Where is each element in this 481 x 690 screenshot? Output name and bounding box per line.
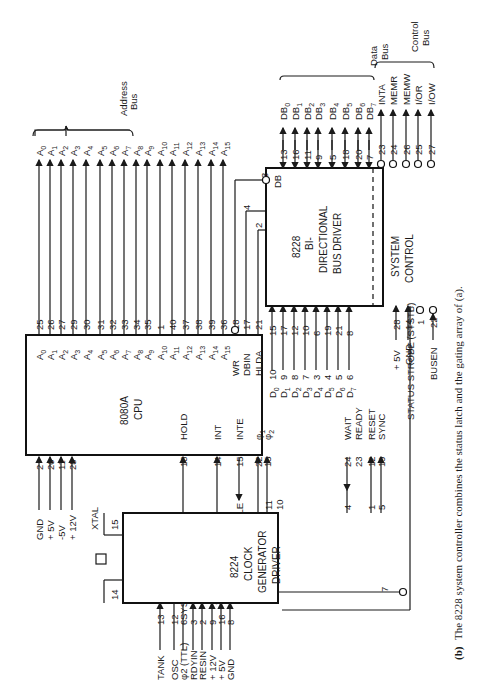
busen-bubble (430, 307, 437, 314)
cpu-power-label: + 5V (45, 520, 56, 540)
circuit-diagram: A0A1A2A3A4A5A6A7A8A9A10A11A12A13A14A15 A… (0, 0, 481, 690)
address-bus-label-a11: A11 (167, 142, 180, 156)
controller-d-pin: 19 (322, 325, 333, 336)
control-bus-label-inta: INTA (376, 83, 387, 105)
controller-pin3-bubble (263, 177, 270, 184)
clock-left-pin: 8 (225, 620, 236, 625)
controller-d-pin: 21 (333, 325, 344, 336)
cpu-pin-number: 32 (107, 319, 118, 330)
address-bus-label-a3: A3 (68, 146, 81, 156)
cpu-data-pin: 4 (322, 375, 333, 380)
controller-d-pin: 12 (289, 325, 300, 336)
controller-db-pin: 20 (353, 149, 364, 160)
controller-db-pin: 18 (340, 149, 351, 160)
control-bubble (403, 161, 410, 168)
control-bubble (378, 161, 385, 168)
svg-text:2: 2 (253, 223, 264, 228)
controller-db-pin: 5 (327, 155, 338, 160)
control-bus-brace (375, 62, 434, 68)
busen-label: BUSEN (428, 347, 439, 380)
control-bus-label-ior: I/OR (413, 85, 424, 105)
cpu-pin-number: 31 (95, 319, 106, 330)
cpu-pin-number: 37 (180, 319, 191, 330)
cpu-data-pin: 5 (333, 375, 344, 380)
controller-d-pin: 10 (300, 325, 311, 336)
svg-text:22: 22 (428, 317, 439, 328)
controller-control-pin: 26 (401, 144, 412, 155)
cpu-data-pin: 7 (300, 375, 311, 380)
cpu-pin-number: 34 (131, 319, 142, 330)
controller-db-pin: 7 (364, 155, 375, 160)
controller-db-pin: 11 (302, 150, 313, 160)
cpu-bottom-label: WAIT (342, 416, 353, 440)
cpu-bottom-label: READY (353, 407, 364, 440)
cpu-power-label: + 12V (67, 514, 78, 540)
cpu-pin-number: 29 (68, 319, 79, 330)
controller-db-pin: 9 (313, 155, 324, 160)
cpu-power-label: GND (34, 519, 45, 540)
cpu-power-label: -5V (56, 525, 67, 540)
control-bus-label-iow: I/OW (426, 83, 437, 105)
cpu-pin-number: 27 (56, 319, 67, 330)
cpu-power-pin: 11 (56, 460, 67, 470)
clock-left-pin: 13 (155, 614, 166, 625)
data-bus-brace (280, 76, 374, 80)
clock-line3: DRIVER (271, 546, 282, 584)
cpu-pin-number: 39 (206, 319, 217, 330)
cpu-name: 8080A (119, 396, 130, 425)
control-bus-label-2: Bus (420, 29, 431, 46)
svg-text:15: 15 (109, 519, 120, 530)
controller-d-pin: 17 (278, 325, 289, 336)
control-bus-label-1: Control (409, 21, 420, 52)
cpu-pin-number: 30 (81, 319, 92, 330)
svg-text:28: 28 (391, 319, 402, 330)
svg-text:7: 7 (379, 587, 390, 592)
control-bubble (415, 161, 422, 168)
clock-top-pin: 10 (274, 499, 285, 510)
cpu-subtitle: CPU (133, 399, 144, 420)
address-bus-lines: A0A1A2A3A4A5A6A7A8A9A10A11A12A13A14A15 (34, 142, 231, 335)
cpu-pin-number: 26 (45, 319, 56, 330)
address-bus-label-a15: A15 (218, 142, 231, 156)
figure-caption-label: (b) (452, 646, 465, 660)
address-bus-label-a4: A4 (81, 146, 94, 156)
controller-name: 8228 (291, 235, 302, 258)
cpu-pin-number: 35 (142, 319, 153, 330)
control-bubble (428, 161, 435, 168)
xtal-crystal-icon (96, 554, 106, 564)
address-bus-label-2: Bus (128, 93, 139, 110)
data-bus-label: DB4 (327, 103, 340, 120)
svg-text:14: 14 (403, 319, 414, 330)
cpu-data-pin: 10 (267, 369, 278, 380)
cpu-pin-label-hlda: HLDA (253, 350, 264, 376)
clock-8224-box (123, 513, 278, 603)
cpu-bottom-pin: 23 (353, 456, 364, 467)
cpu-bottom-label: INTE (234, 418, 245, 440)
controller-d-pin: 8 (344, 331, 355, 336)
controller-db-pin: 16 (290, 149, 301, 160)
cpu-power-pin: 2 (34, 465, 45, 470)
sts-bubble (417, 307, 424, 314)
controller-system-label: SYSTEM (390, 236, 401, 277)
wr-inverter-bubble (232, 327, 239, 334)
svg-text:4: 4 (241, 205, 252, 210)
xtal-label: XTAL (89, 507, 100, 530)
cpu-pin-number: 25 (34, 319, 45, 330)
control-bus-label-memr: MEMR (388, 76, 399, 105)
controller-db-pin: 13 (278, 149, 289, 160)
clock-line1: CLOCK (243, 546, 254, 581)
data-bus-label: DB5 (340, 103, 353, 120)
cpu-data-pin: 3 (311, 375, 322, 380)
controller-d-pin: 15 (267, 325, 278, 336)
cpu-pin-number: 36 (218, 319, 229, 330)
controller-line2: DIRECTIONAL (318, 205, 329, 273)
cpu-bottom-label: HOLD (178, 413, 189, 440)
svg-text:GND: GND (403, 344, 414, 365)
controller-control-pin: 25 (413, 144, 424, 155)
cpu-power-pin: 28 (67, 459, 78, 470)
clock-name: 8224 (229, 555, 240, 578)
clock-sts-bubble (400, 589, 407, 596)
clock-top-pin: 4 (342, 505, 353, 510)
cpu-data-pin: 9 (278, 375, 289, 380)
cpu-bottom-label: SYNC (376, 413, 387, 440)
